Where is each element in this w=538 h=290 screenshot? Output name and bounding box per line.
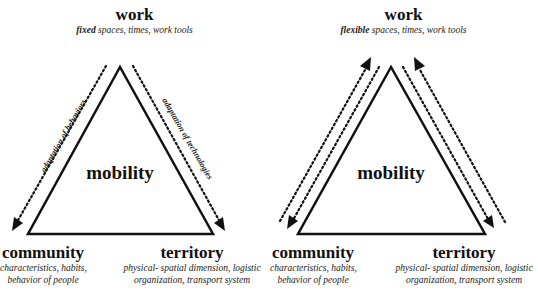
territory-title: territory: [118, 244, 266, 262]
mobility-label: mobility: [70, 162, 170, 184]
work-qualifier: flexible: [340, 25, 369, 35]
community-title: community: [0, 244, 86, 262]
diagram-panel-fixed: adaptation of behaviors adaptation of te…: [0, 0, 269, 290]
arrow-community-to-work: [280, 70, 365, 221]
work-title: work: [0, 6, 269, 24]
territory-node: territory physical- spatial dimension, l…: [390, 244, 538, 286]
work-qualifier: fixed: [76, 25, 96, 35]
territory-description-line2: organization, transport system: [390, 274, 538, 286]
arrow-work-to-community: [293, 67, 379, 220]
mobility-triangle: [298, 67, 485, 234]
arrow-work-to-territory: [403, 67, 488, 219]
work-title: work: [269, 6, 538, 24]
arrowhead-up-left-icon: [360, 57, 371, 71]
arrowhead-down-right-icon: [483, 215, 494, 228]
territory-description-line1: physical- spatial dimension, logistic: [390, 262, 538, 274]
arrow-adaptation-of-technologies: [133, 66, 220, 222]
community-description-line2: behavior of people: [0, 274, 86, 286]
work-node: work fixed spaces, times, work tools: [0, 6, 269, 36]
arrow-territory-to-work: [420, 70, 505, 222]
work-description: fixed spaces, times, work tools: [0, 24, 269, 36]
diagram-panel-flexible: work flexible spaces, times, work tools …: [269, 0, 538, 290]
arrowhead-down-left-icon: [287, 215, 298, 229]
mobility-label: mobility: [341, 162, 441, 184]
territory-description-line1: physical- spatial dimension, logistic: [118, 262, 266, 274]
work-description: flexible spaces, times, work tools: [269, 24, 538, 36]
community-description-line1: characteristics, habits,: [270, 262, 356, 274]
territory-title: territory: [390, 244, 538, 262]
community-title: community: [270, 244, 356, 262]
arrowhead-up-right-icon: [414, 57, 425, 71]
community-description-line2: behavior of people: [270, 274, 356, 286]
community-node: community characteristics, habits, behav…: [0, 244, 86, 286]
community-description-line1: characteristics, habits,: [0, 262, 86, 274]
territory-description-line2: organization, transport system: [118, 274, 266, 286]
work-node: work flexible spaces, times, work tools: [269, 6, 538, 36]
territory-node: territory physical- spatial dimension, l…: [118, 244, 266, 286]
community-node: community characteristics, habits, behav…: [270, 244, 356, 286]
